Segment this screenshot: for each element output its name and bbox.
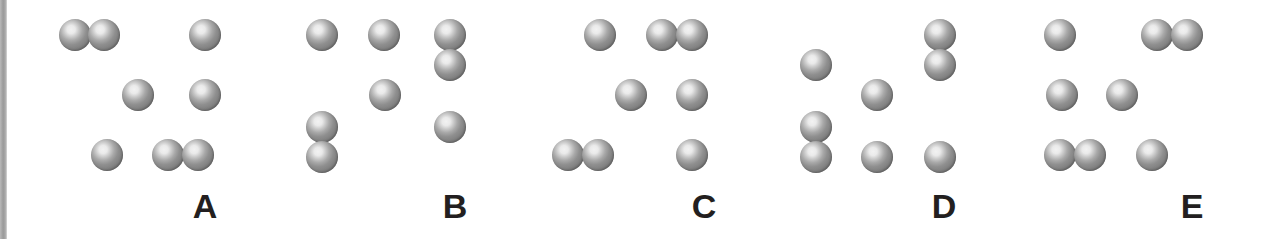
figure-canvas: ABCDE xyxy=(0,0,1262,239)
dot xyxy=(1046,79,1078,111)
dot xyxy=(1106,79,1138,111)
dot xyxy=(1136,139,1168,171)
dot xyxy=(1171,19,1203,51)
dot xyxy=(1141,19,1173,51)
panel-label-e: E xyxy=(1172,189,1212,223)
dot-pattern-panel-e: E xyxy=(0,0,1262,239)
dot xyxy=(1044,19,1076,51)
dot xyxy=(1044,139,1076,171)
dot xyxy=(1074,139,1106,171)
